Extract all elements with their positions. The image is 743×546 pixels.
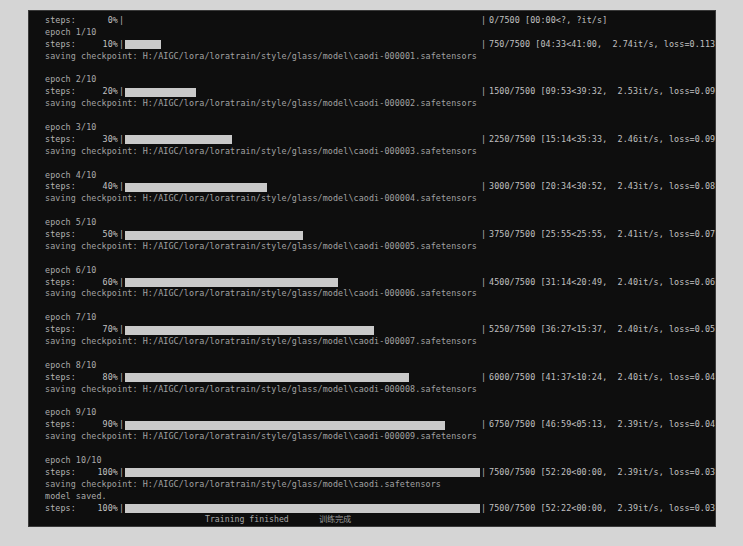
log-epoch-line: epoch 7/10 [29, 312, 715, 324]
progress-bracket-left: | [119, 419, 124, 431]
progress-bracket-left: | [119, 134, 124, 146]
log-blank-line [29, 300, 715, 312]
progress-bar-row: steps:100%||7500/7500 [52:20<00:00, 2.39… [29, 467, 715, 479]
log-blank-line [29, 158, 715, 170]
progress-stats: 1500/7500 [09:53<39:32, 2.53it/s, loss=0… [489, 86, 716, 98]
log-blank-line [29, 205, 715, 217]
progress-bar-track [125, 183, 480, 192]
progress-bracket-right: | [481, 324, 486, 336]
progress-bracket-left: | [119, 467, 124, 479]
log-blank-line [29, 348, 715, 360]
log-blank-line [29, 443, 715, 455]
log-checkpoint-line: saving checkpoint: H:/AIGC/lora/loratrai… [29, 193, 715, 205]
progress-bar-row: steps:40%||3000/7500 [20:34<30:52, 2.43i… [29, 181, 715, 193]
log-blank-line [29, 63, 715, 75]
progress-bar-track [125, 40, 480, 49]
progress-bar-fill [125, 183, 267, 192]
progress-stats: 3750/7500 [25:55<25:55, 2.41it/s, loss=0… [489, 229, 716, 241]
progress-bar-track [125, 421, 480, 430]
log-epoch-line: epoch 6/10 [29, 265, 715, 277]
progress-label: steps: [45, 372, 76, 384]
progress-percent: 40% [84, 181, 118, 193]
progress-percent: 90% [84, 419, 118, 431]
progress-stats: 4500/7500 [31:14<20:49, 2.40it/s, loss=0… [489, 277, 716, 289]
progress-percent: 60% [84, 277, 118, 289]
progress-label: steps: [45, 419, 76, 431]
log-epoch-line: epoch 2/10 [29, 74, 715, 86]
log-checkpoint-line: saving checkpoint: H:/AIGC/lora/loratrai… [29, 98, 715, 110]
progress-bar-row: steps:50%||3750/7500 [25:55<25:55, 2.41i… [29, 229, 715, 241]
progress-bar-row: steps:70%||5250/7500 [36:27<15:37, 2.40i… [29, 324, 715, 336]
progress-percent: 50% [84, 229, 118, 241]
progress-stats: 3000/7500 [20:34<30:52, 2.43it/s, loss=0… [489, 181, 716, 193]
progress-bar-track [125, 231, 480, 240]
progress-bracket-left: | [119, 15, 124, 27]
log-epoch-line: epoch 1/10 [29, 27, 715, 39]
progress-label: steps: [45, 86, 76, 98]
progress-stats: 0/7500 [00:00<?, ?it/s] [489, 15, 607, 27]
progress-label: steps: [45, 467, 76, 479]
log-checkpoint-line: saving checkpoint: H:/AIGC/lora/loratrai… [29, 241, 715, 253]
training-finished-label-cn: 训练完成 [319, 513, 351, 526]
progress-bracket-left: | [119, 229, 124, 241]
log-checkpoint-line: saving checkpoint: H:/AIGC/lora/loratrai… [29, 384, 715, 396]
progress-bar-fill [125, 326, 374, 335]
progress-bar-track [125, 278, 480, 287]
progress-label: steps: [45, 277, 76, 289]
progress-bar-track [125, 373, 480, 382]
progress-bracket-right: | [481, 15, 486, 27]
log-checkpoint-line: saving checkpoint: H:/AIGC/lora/loratrai… [29, 479, 715, 491]
progress-percent: 30% [84, 134, 118, 146]
log-checkpoint-line: saving checkpoint: H:/AIGC/lora/loratrai… [29, 146, 715, 158]
progress-label: steps: [45, 181, 76, 193]
log-epoch-line: epoch 3/10 [29, 122, 715, 134]
progress-bracket-right: | [481, 419, 486, 431]
progress-bar-track [125, 504, 480, 513]
progress-bracket-right: | [481, 277, 486, 289]
progress-stats: 5250/7500 [36:27<15:37, 2.40it/s, loss=0… [489, 324, 716, 336]
progress-bar-row: steps:10%||750/7500 [04:33<41:00, 2.74it… [29, 39, 715, 51]
progress-bar-track [125, 88, 480, 97]
progress-bracket-right: | [481, 467, 486, 479]
progress-bar-fill [125, 278, 338, 287]
log-checkpoint-line: saving checkpoint: H:/AIGC/lora/loratrai… [29, 288, 715, 300]
progress-bracket-left: | [119, 86, 124, 98]
progress-bar-track [125, 135, 480, 144]
progress-label: steps: [45, 324, 76, 336]
progress-label: steps: [45, 39, 76, 51]
progress-stats: 2250/7500 [15:14<35:33, 2.46it/s, loss=0… [489, 134, 716, 146]
log-epoch-line: epoch 5/10 [29, 217, 715, 229]
progress-bar-row: steps:30%||2250/7500 [15:14<35:33, 2.46i… [29, 134, 715, 146]
progress-bracket-left: | [119, 39, 124, 51]
progress-bar-fill [125, 88, 196, 97]
progress-bar-row: steps:90%||6750/7500 [46:59<05:13, 2.39i… [29, 419, 715, 431]
progress-bar-track [125, 468, 480, 477]
progress-bar-fill [125, 40, 161, 49]
terminal-log: steps:0%||0/7500 [00:00<?, ?it/s]epoch 1… [29, 15, 715, 514]
progress-bracket-right: | [481, 372, 486, 384]
log-checkpoint-line: saving checkpoint: H:/AIGC/lora/loratrai… [29, 431, 715, 443]
progress-percent: 10% [84, 39, 118, 51]
progress-bracket-left: | [119, 277, 124, 289]
progress-bar-row: steps:20%||1500/7500 [09:53<39:32, 2.53i… [29, 86, 715, 98]
progress-bracket-right: | [481, 86, 486, 98]
progress-bar-fill [125, 504, 480, 513]
progress-percent: 70% [84, 324, 118, 336]
progress-bar-fill [125, 468, 480, 477]
progress-label: steps: [45, 134, 76, 146]
progress-bar-row: steps:60%||4500/7500 [31:14<20:49, 2.40i… [29, 277, 715, 289]
log-epoch-line: epoch 8/10 [29, 360, 715, 372]
progress-bracket-right: | [481, 134, 486, 146]
progress-bar-row: steps:0%||0/7500 [00:00<?, ?it/s] [29, 15, 715, 27]
training-finished-statusbar: Training finished 训练完成 [29, 513, 715, 526]
progress-bar-fill [125, 135, 232, 144]
log-checkpoint-line: saving checkpoint: H:/AIGC/lora/loratrai… [29, 336, 715, 348]
progress-percent: 80% [84, 372, 118, 384]
log-blank-line [29, 110, 715, 122]
progress-bracket-right: | [481, 229, 486, 241]
terminal-console[interactable]: steps:0%||0/7500 [00:00<?, ?it/s]epoch 1… [28, 10, 716, 527]
progress-bracket-right: | [481, 39, 486, 51]
log-blank-line [29, 396, 715, 408]
progress-bar-track [125, 17, 480, 26]
progress-bracket-left: | [119, 181, 124, 193]
